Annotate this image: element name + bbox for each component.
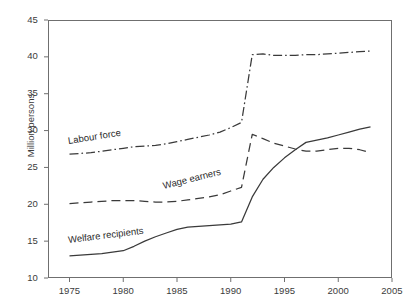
y-tick-label: 10: [8, 272, 38, 283]
x-tick-label: 1975: [50, 285, 90, 296]
y-tick-label: 15: [8, 235, 38, 246]
y-tick-label: 30: [8, 124, 38, 135]
x-tick-label: 1985: [157, 285, 197, 296]
chart-canvas: [0, 0, 416, 302]
y-tick-label: 35: [8, 87, 38, 98]
y-tick-label: 20: [8, 198, 38, 209]
x-tick-label: 1995: [265, 285, 305, 296]
y-tick-label: 25: [8, 161, 38, 172]
x-tick-label: 1980: [103, 285, 143, 296]
y-tick-label: 40: [8, 50, 38, 61]
x-tick-label: 2005: [372, 285, 412, 296]
x-tick-label: 1990: [211, 285, 251, 296]
y-tick-label: 45: [8, 14, 38, 25]
x-tick-label: 2000: [318, 285, 358, 296]
chart-figure: Million persons 1015202530354045 1975198…: [0, 0, 416, 302]
